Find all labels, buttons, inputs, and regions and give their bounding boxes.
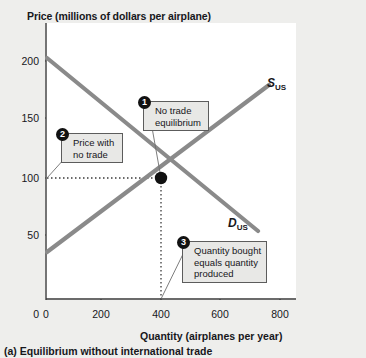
y-tick-label-100: 100 (5, 172, 39, 184)
callout-quantity-bought-equals-produced: Quantity bought equals quantity produced (182, 241, 267, 283)
x-tick-label-600: 600 (200, 308, 240, 320)
callout-3-line-3: produced (194, 268, 262, 280)
y-tick-label-150: 150 (5, 112, 39, 124)
x-tick-label-0: 0 (26, 308, 66, 320)
supply-curve-label: SUS (267, 76, 286, 92)
callout-2-line-1: Price with (73, 137, 118, 149)
callout-1-badge: 1 (138, 96, 151, 109)
y-axis-title: Price (millions of dollars per airplane) (27, 10, 211, 22)
callout-1-line-1: No trade (155, 105, 204, 117)
callout-price-with-no-trade: Price with no trade (61, 133, 123, 163)
economics-figure: Price (millions of dollars per airplane) (0, 0, 366, 358)
callout-2-line-2: no trade (73, 149, 118, 161)
callout-1-line-2: equilibrium (155, 117, 204, 129)
callout-2-badge: 2 (56, 128, 69, 141)
x-axis-title: Quantity (airplanes per year) (140, 330, 282, 342)
plot-area: SUS DUS No trade equilibrium 1 Price wit… (45, 23, 296, 300)
callout-3-badge: 3 (177, 236, 190, 249)
x-tick-label-200: 200 (81, 308, 121, 320)
x-tick-label-800: 800 (260, 308, 300, 320)
callout-3-line-1: Quantity bought (194, 245, 262, 257)
y-tick-label-50: 50 (5, 229, 39, 241)
y-tick-label-200: 200 (5, 55, 39, 67)
callout-no-trade-equilibrium: No trade equilibrium (143, 101, 209, 131)
figure-caption: (a) Equilibrium without international tr… (4, 345, 212, 357)
equilibrium-point (155, 172, 167, 184)
demand-curve-label: DUS (228, 216, 248, 232)
callout-3-line-2: equals quantity (194, 257, 262, 269)
x-tick-label-400: 400 (141, 308, 181, 320)
